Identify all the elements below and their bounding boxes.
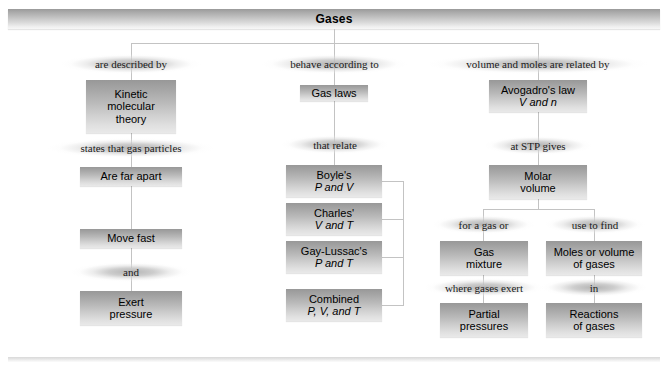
node-are-far-apart: Are far apart: [80, 167, 182, 186]
node-charles-law: Charles' V and T: [286, 203, 382, 235]
node-avogadros-law-line2: V and n: [519, 96, 557, 108]
connector-bracket-stub-gay-lussacs: [382, 257, 403, 258]
connector-bracket-stub-combined: [382, 305, 403, 306]
node-gay-lussacs-law: Gay-Lussac's P and T: [286, 241, 382, 273]
connector-bracket-spine: [403, 181, 404, 306]
connector-bracket-stub-boyles: [382, 181, 403, 182]
concept-map-canvas: Gases are described by Kinetic molecular…: [0, 0, 668, 375]
connector-label-volume-and-moles-are-related-by: volume and moles are related by: [427, 54, 649, 74]
connector-label-at-stp-gives: at STP gives: [484, 136, 592, 155]
connector-label-in: in: [541, 278, 647, 297]
page-title: Gases: [8, 12, 660, 26]
connector-label-states-that-gas-particles: states that gas particles: [48, 138, 214, 158]
node-partial-pressures: Partial pressures: [440, 303, 528, 337]
node-reactions-of-gases: Reactions of gases: [546, 303, 642, 337]
node-combined-gas-law-vars: P, V, and T: [308, 305, 361, 317]
connector-bracket-stub-charles: [382, 219, 403, 220]
node-exert-pressure: Exert pressure: [80, 291, 182, 325]
connector-title-stem: [334, 29, 335, 43]
connector-molar-volume-bus: [483, 209, 594, 210]
node-charles-law-name: Charles': [314, 207, 354, 220]
node-boyles-law-name: Boyle's: [316, 169, 351, 182]
connector-label-for-a-gas-or: for a gas or: [432, 215, 535, 234]
node-avogadros-law-line1: Avogadro's law: [501, 84, 575, 97]
connector-title-bus: [131, 43, 539, 44]
node-gay-lussacs-law-name: Gay-Lussac's: [301, 245, 367, 258]
footer-divider: [8, 357, 660, 362]
node-boyles-law-vars: P and V: [315, 181, 354, 193]
node-moles-or-volume-of-gases: Moles or volume of gases: [546, 241, 642, 275]
node-combined-gas-law: Combined P, V, and T: [286, 289, 382, 321]
connector-label-use-to-find: use to find: [545, 215, 645, 234]
node-gas-laws: Gas laws: [300, 85, 368, 101]
node-boyles-law: Boyle's P and V: [286, 165, 382, 197]
connector-label-and: and: [71, 262, 191, 282]
node-gay-lussacs-law-vars: P and T: [315, 257, 353, 269]
node-gas-mixture: Gas mixture: [440, 241, 528, 275]
node-combined-gas-law-name: Combined: [309, 293, 359, 306]
connector-label-that-relate: that relate: [281, 135, 389, 154]
node-charles-law-vars: V and T: [315, 219, 354, 231]
connector-label-where-gases-exert: where gases exert: [424, 278, 544, 297]
connector-label-behave-according-to: behave according to: [262, 54, 407, 74]
connector-far-apart-to-move-fast: [131, 186, 132, 229]
node-move-fast: Move fast: [80, 229, 182, 248]
connector-label-are-described-by: are described by: [61, 54, 201, 74]
node-molar-volume: Molar volume: [489, 165, 587, 199]
map-title-banner: Gases: [8, 9, 660, 29]
connector-molar-volume-stem: [538, 199, 539, 209]
node-avogadros-law: Avogadro's law V and n: [489, 80, 587, 112]
node-kinetic-molecular-theory: Kinetic molecular theory: [86, 80, 176, 133]
